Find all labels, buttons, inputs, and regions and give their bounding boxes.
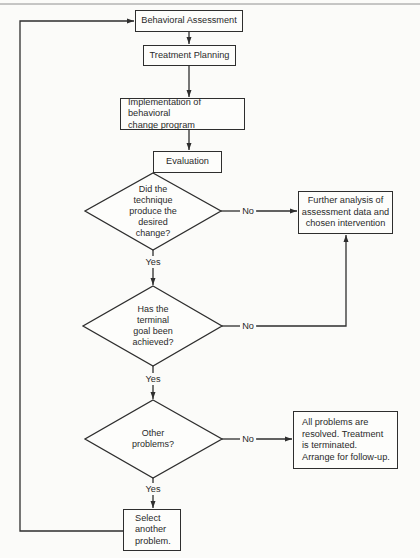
decision-goal-label: Has the terminal goal been achieved? <box>132 304 173 348</box>
node-all-problems-resolved-label: All problems are resolved. Treatment is … <box>302 417 390 463</box>
node-further-analysis-label: Further analysis of assessment data and … <box>302 195 389 230</box>
edge-goal-no-b <box>256 235 346 326</box>
node-implementation-label: Implementation of behavioral change prog… <box>128 97 244 132</box>
node-treatment-planning-label: Treatment Planning <box>150 50 230 62</box>
node-implementation: Implementation of behavioral change prog… <box>120 98 245 130</box>
decision-other-label: Other problems? <box>132 428 174 450</box>
edge-label-goal-yes: Yes <box>144 374 163 385</box>
edge-label-change-yes: Yes <box>144 257 163 268</box>
node-behavioral-assessment-label: Behavioral Assessment <box>141 15 237 27</box>
edge-label-change-no: No <box>240 206 256 217</box>
node-behavioral-assessment: Behavioral Assessment <box>135 10 243 32</box>
node-evaluation: Evaluation <box>153 151 222 173</box>
node-further-analysis: Further analysis of assessment data and … <box>298 191 393 234</box>
node-treatment-planning: Treatment Planning <box>143 45 236 66</box>
edge-label-other-no: No <box>240 434 256 445</box>
flowchart-connectors <box>0 0 420 558</box>
node-select-another-problem-label: Select another problem. <box>135 513 171 548</box>
node-all-problems-resolved: All problems are resolved. Treatment is … <box>293 411 398 469</box>
node-select-another-problem: Select another problem. <box>123 509 181 551</box>
edge-label-goal-no: No <box>240 321 256 332</box>
node-evaluation-label: Evaluation <box>166 156 209 168</box>
edge-label-other-yes: Yes <box>144 484 163 495</box>
decision-change-label: Did the technique produce the desired ch… <box>129 184 177 239</box>
